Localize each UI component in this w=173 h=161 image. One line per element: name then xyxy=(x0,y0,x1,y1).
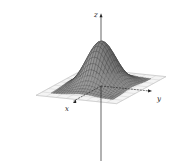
y-axis-label: y xyxy=(156,95,162,103)
surface-plot: z y x xyxy=(0,0,173,161)
x-axis-label: x xyxy=(65,105,69,113)
z-axis-label: z xyxy=(93,11,98,19)
